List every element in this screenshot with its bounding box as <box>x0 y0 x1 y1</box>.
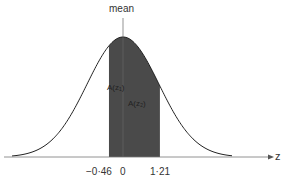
tick-label-zero: 0 <box>120 167 126 177</box>
area-label-2: A(z₂) <box>128 100 146 108</box>
z-axis-label: z <box>275 151 281 162</box>
normal-curve-diagram <box>0 0 285 185</box>
area-label-1: A(z₁) <box>107 84 124 92</box>
shaded-area <box>109 37 160 157</box>
tick-label-right: 1·21 <box>150 167 170 177</box>
axis-arrow-icon <box>268 155 274 160</box>
mean-label: mean <box>109 4 134 14</box>
tick-label-left: −0·46 <box>86 167 112 177</box>
